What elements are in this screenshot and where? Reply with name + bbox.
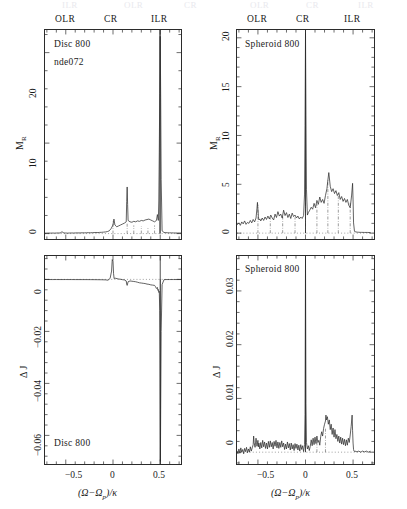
xaxis-title-right: (Ω−Ωp)/κ (271, 487, 310, 501)
yaxis-title-tl: MR (14, 136, 28, 150)
xtick-label-br-0: 0 (303, 470, 308, 480)
resonance-label-cr-left: CR (104, 14, 117, 24)
xtick-label-br-05: 0.5 (346, 470, 358, 480)
ytick-label-tr-20: 20 (221, 32, 231, 42)
ytick-label-br-003: 0.03 (225, 277, 235, 294)
annotation-spheroid-800-bottom: Spheroid 800 (245, 264, 300, 274)
ytick-label-bl-m002: −0.02 (33, 326, 43, 348)
ytick-label-tr-15: 15 (221, 83, 231, 93)
ghost-label-cr2: CR (184, 0, 197, 10)
xaxis-title-left-tail: )/κ (106, 487, 117, 498)
resonance-label-ilr-left: ILR (151, 14, 168, 24)
annotation-disc-800-top: Disc 800 (54, 39, 90, 49)
ytick-label-tl-20: 20 (28, 89, 38, 99)
ytick-label-tr-10: 10 (221, 132, 231, 142)
ytick-label-br-001: 0.01 (225, 383, 235, 400)
xtick-label-bl-05: 0.5 (153, 470, 165, 480)
resonance-label-ilr-right: ILR (344, 14, 361, 24)
plot-area-disc-dj (45, 256, 181, 464)
xaxis-title-right-main: (Ω−Ω (271, 487, 296, 498)
ytick-label-bl-m004: −0.04 (33, 380, 43, 402)
annotation-spheroid-800-top: Spheroid 800 (245, 39, 300, 49)
xtick-label-bl-0: 0 (110, 470, 115, 480)
ytick-label-tr-0: 0 (221, 229, 231, 234)
resonance-label-cr-right: CR (296, 14, 309, 24)
yaxis-title-br: Δ J (211, 366, 222, 378)
plot-area-spheroid-mr (237, 30, 374, 239)
ytick-label-tl-10: 10 (28, 159, 38, 169)
xtick-label-br-m05: −0.5 (257, 470, 274, 480)
annotation-disc-800-bottom: Disc 800 (54, 438, 90, 448)
yaxis-title-tl-sub: R (20, 136, 28, 141)
ytick-label-bl-m006: −0.06 (33, 434, 43, 456)
yaxis-title-tl-main: M (14, 141, 25, 150)
yaxis-title-tr-main: M (208, 141, 219, 150)
ghost-label-olr2: OLR (124, 0, 143, 10)
xaxis-title-left-main: (Ω−Ω (78, 487, 103, 498)
ytick-label-tl-0: 0 (28, 229, 38, 234)
panel-spheroid-800-dj (236, 255, 375, 465)
ghost-label-olr3: OLR (250, 0, 269, 10)
panel-disc-800-dj (44, 255, 182, 465)
ghost-label-ilr3: ILR (358, 0, 374, 10)
resonance-label-olr-right: OLR (247, 14, 267, 24)
ytick-label-br-0: 0 (225, 440, 235, 445)
ytick-label-bl-0: 0 (33, 289, 43, 294)
panel-spheroid-800-mr (236, 29, 375, 240)
xaxis-title-left: (Ω−Ωp)/κ (78, 487, 117, 501)
ytick-label-tr-5: 5 (221, 182, 231, 187)
annotation-nde072: nde072 (54, 57, 84, 67)
ghost-label-cr3: CR (306, 0, 319, 10)
ghost-label-ilr: ILR (62, 0, 78, 10)
plot-area-spheroid-dj (237, 256, 374, 464)
resonance-label-olr-left: OLR (55, 14, 75, 24)
yaxis-title-tr: MR (208, 136, 222, 150)
yaxis-title-bl: Δ J (18, 366, 29, 378)
yaxis-title-tr-sub: R (214, 136, 222, 141)
xaxis-title-right-tail: )/κ (299, 487, 310, 498)
xtick-label-bl-m05: −0.5 (65, 470, 82, 480)
ytick-label-br-002: 0.02 (225, 330, 235, 347)
figure-canvas: ILR OLR CR OLR CR ILR OLR CR ILR OLR CR … (0, 0, 407, 509)
